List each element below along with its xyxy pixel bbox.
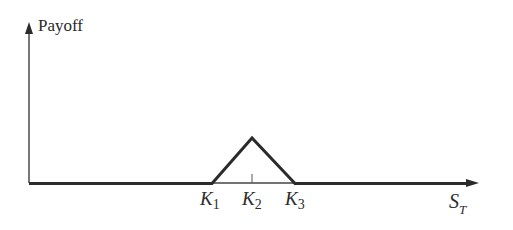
strike-k3-label: K3 xyxy=(285,188,305,213)
strike-k2-label: K2 xyxy=(242,188,262,213)
x-axis-label: ST xyxy=(449,190,466,218)
strike-k1-label: K1 xyxy=(200,188,220,213)
y-axis-arrow-icon xyxy=(25,22,33,34)
payoff-line xyxy=(29,138,470,184)
y-axis-label: Payoff xyxy=(38,16,83,36)
